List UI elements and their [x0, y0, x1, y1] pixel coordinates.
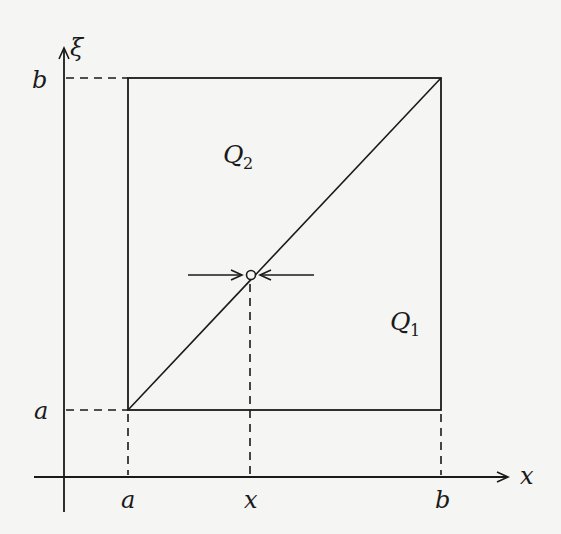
diagram-canvas: x ξ b a a x b Q 2 Q 1: [0, 0, 561, 534]
region-label-q2: Q 2: [223, 140, 253, 173]
region-label-q1: Q 1: [390, 307, 420, 340]
integration-region-diagram: x ξ b a a x b Q 2 Q 1: [0, 0, 561, 534]
tick-x-a: a: [121, 486, 135, 514]
diagonal-point-icon: [247, 271, 256, 280]
region-q1-subscript: 1: [410, 321, 420, 340]
tick-x-x: x: [244, 486, 258, 514]
tick-y-b: b: [32, 66, 47, 94]
tick-x-b: b: [435, 486, 450, 514]
region-q2-letter: Q: [223, 140, 244, 169]
xi-axis-label: ξ: [70, 34, 85, 62]
region-q1-letter: Q: [390, 307, 411, 336]
x-axis-label: x: [520, 462, 534, 490]
diagonal-line: [128, 78, 441, 410]
tick-y-a: a: [34, 397, 48, 425]
region-q2-subscript: 2: [243, 154, 253, 173]
